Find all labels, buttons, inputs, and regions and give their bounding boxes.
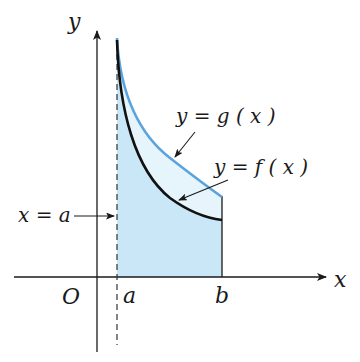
g-curve-label: y = g ( x ) <box>175 104 276 128</box>
g-label-pointer <box>175 132 195 157</box>
tick-label-b: b <box>215 283 229 308</box>
diagram-canvas: y x O a b y = g ( x ) y = f ( x ) x = a <box>0 0 360 362</box>
diagram-svg: y x O a b y = g ( x ) y = f ( x ) x = a <box>0 0 360 362</box>
f-curve-label: y = f ( x ) <box>213 155 308 179</box>
x-axis-label: x <box>334 267 347 292</box>
tick-label-a: a <box>123 283 136 308</box>
y-axis-label: y <box>67 9 81 34</box>
line-a-label: x = a <box>18 203 71 227</box>
origin-label: O <box>62 284 80 309</box>
